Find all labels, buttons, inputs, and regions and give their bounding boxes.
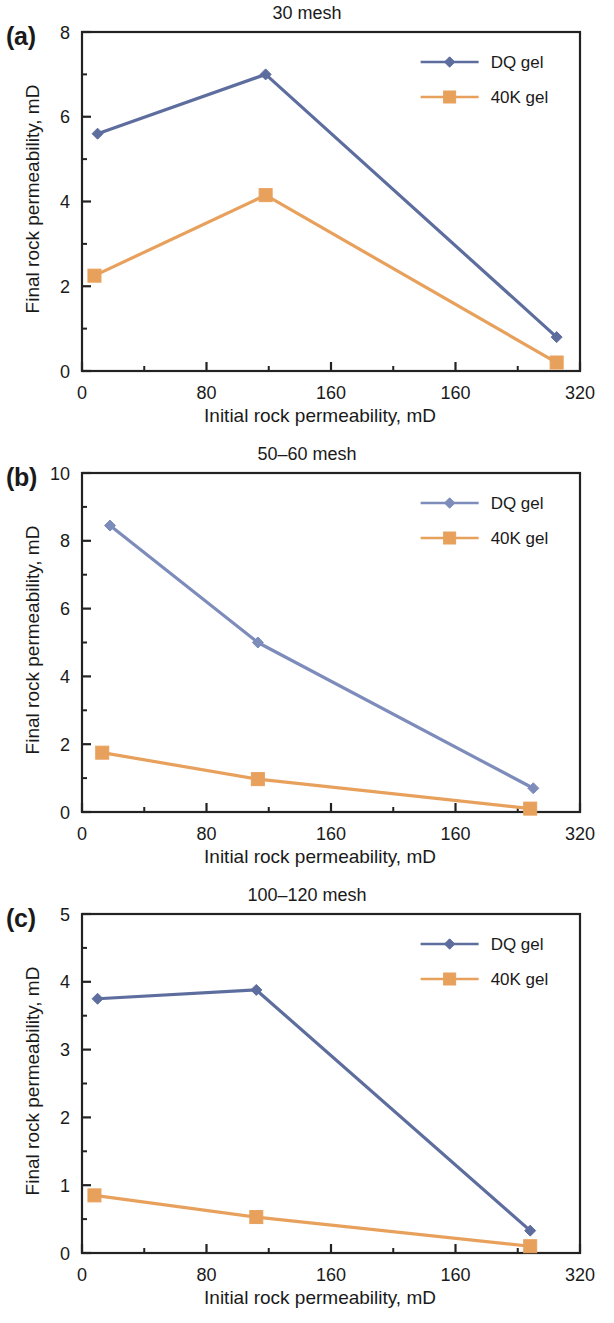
x-tick-label: 160	[316, 383, 346, 403]
x-tick-label: 160	[316, 824, 346, 844]
y-tick-label: 6	[60, 599, 70, 619]
x-tick-label: 320	[565, 824, 595, 844]
data-series	[92, 984, 536, 1236]
y-tick-label: 4	[60, 972, 70, 992]
x-tick-label: 160	[440, 824, 470, 844]
y-tick-label: 5	[60, 905, 70, 925]
x-tick-label: 80	[196, 1265, 216, 1285]
x-tick-label: 0	[77, 383, 87, 403]
x-tick-label: 320	[565, 1265, 595, 1285]
y-tick-label: 2	[60, 735, 70, 755]
chart-panel-b: (b) 50–60 mesh Final rock permeability, …	[0, 441, 614, 882]
legend-entry-label: 40K gel	[491, 529, 549, 548]
y-tick-label: 3	[60, 1040, 70, 1060]
y-tick-label: 4	[60, 667, 70, 687]
plot-area-b: 0246810080160160320DQ gel40K gel	[0, 441, 614, 882]
data-series	[105, 520, 539, 794]
plot-area-a: 02468080160160320DQ gel40K gel	[0, 0, 614, 441]
legend-entry-label: DQ gel	[491, 494, 544, 513]
legend-entry-label: 40K gel	[491, 970, 549, 989]
x-tick-label: 80	[196, 383, 216, 403]
y-tick-label: 0	[60, 362, 70, 382]
data-series	[92, 69, 562, 343]
y-tick-label: 8	[60, 531, 70, 551]
chart-panel-a: (a) 30 mesh Final rock permeability, mD …	[0, 0, 614, 441]
legend-entry-label: 40K gel	[491, 88, 549, 107]
chart-legend: DQ gel40K gel	[421, 494, 549, 548]
chart-legend: DQ gel40K gel	[421, 935, 549, 989]
y-tick-label: 2	[60, 1108, 70, 1128]
x-tick-label: 0	[77, 1265, 87, 1285]
y-tick-label: 2	[60, 277, 70, 297]
chart-legend: DQ gel40K gel	[421, 53, 549, 107]
y-tick-label: 8	[60, 23, 70, 43]
legend-entry-label: DQ gel	[491, 53, 544, 72]
x-tick-label: 320	[565, 383, 595, 403]
y-tick-label: 6	[60, 107, 70, 127]
x-tick-label: 160	[440, 383, 470, 403]
data-series	[88, 1189, 537, 1253]
y-tick-label: 1	[60, 1176, 70, 1196]
plot-area-c: 012345080160160320DQ gel40K gel	[0, 882, 614, 1323]
x-tick-label: 80	[196, 824, 216, 844]
x-tick-label: 0	[77, 824, 87, 844]
y-tick-label: 10	[50, 464, 70, 484]
x-tick-label: 160	[316, 1265, 346, 1285]
chart-panel-c: (c) 100–120 mesh Final rock permeability…	[0, 882, 614, 1323]
y-tick-label: 0	[60, 803, 70, 823]
figure-three-panel-permeability: (a) 30 mesh Final rock permeability, mD …	[0, 0, 614, 1323]
y-tick-label: 0	[60, 1244, 70, 1264]
x-tick-label: 160	[440, 1265, 470, 1285]
y-tick-label: 4	[60, 192, 70, 212]
legend-entry-label: DQ gel	[491, 935, 544, 954]
